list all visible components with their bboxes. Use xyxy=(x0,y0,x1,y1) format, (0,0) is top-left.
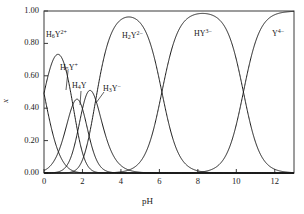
curve-label-H4Y: H4Y xyxy=(72,82,87,90)
y-axis-label: x xyxy=(0,99,10,103)
y-tick-label: 0.80 xyxy=(13,37,39,47)
curve-label-H5Y+: H5Y+ xyxy=(60,62,78,72)
x-tick-label: 4 xyxy=(113,176,129,186)
curve-label-Y4-: Y4− xyxy=(272,28,284,38)
x-tick-label: 2 xyxy=(74,176,90,186)
x-tick-label: 6 xyxy=(151,176,167,186)
x-tick-label: 8 xyxy=(190,176,206,186)
y-tick-label: 1.00 xyxy=(13,5,39,15)
curve-label-H6Y2+: H6Y2+ xyxy=(46,29,67,39)
x-tick-label: 10 xyxy=(228,176,244,186)
curve-label-HY3-: HY3− xyxy=(194,28,212,38)
curve-label-H3Y-: H3Y− xyxy=(103,83,121,93)
y-tick-label: 0.40 xyxy=(13,102,39,112)
y-tick-label: 0.20 xyxy=(13,135,39,145)
x-axis-label: pH xyxy=(142,196,153,206)
curve-label-H2Y2-: H2Y2− xyxy=(122,30,143,40)
x-tick-label: 0 xyxy=(36,176,52,186)
x-tick-label: 12 xyxy=(267,176,283,186)
y-tick-label: 0.60 xyxy=(13,70,39,80)
